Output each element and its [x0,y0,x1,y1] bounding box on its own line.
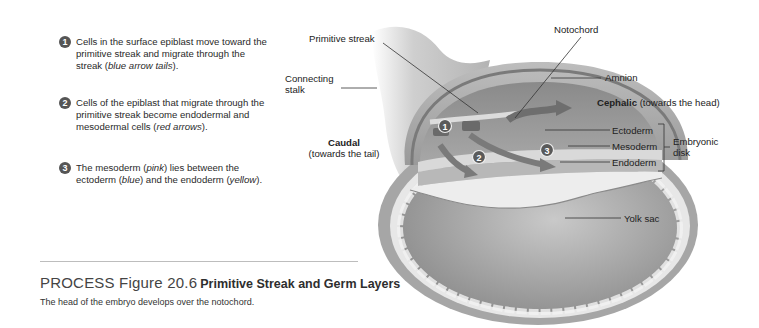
svg-text:1: 1 [442,122,447,132]
label-mesoderm: Mesoderm [612,141,657,152]
label-connecting-stalk: Connectingstalk [285,73,334,95]
svg-text:2: 2 [476,153,481,163]
label-primitive-streak: Primitive streak [309,33,375,44]
label-embryonic-disk: Embryonicdisk [673,136,718,158]
label-notochord: Notochord [554,24,598,35]
svg-text:3: 3 [544,146,549,156]
marker-1: 1 [439,120,452,133]
label-endoderm: Endoderm [612,157,656,168]
marker-2: 2 [473,151,486,164]
label-cephalic: Cephalic (towards the head) [597,97,720,108]
label-yolk-sac: Yolk sac [624,213,659,224]
label-amnion: Amnion [605,72,638,83]
label-caudal: Caudal(towards the tail) [297,137,391,159]
label-ectoderm: Ectoderm [612,125,653,136]
marker-3: 3 [541,144,554,157]
